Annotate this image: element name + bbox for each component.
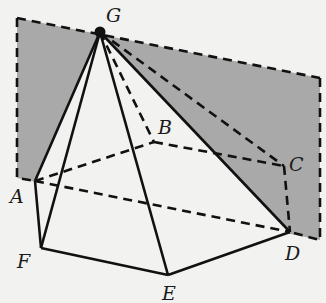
label-C: C: [289, 153, 304, 175]
label-F: F: [16, 250, 31, 272]
label-E: E: [161, 282, 176, 303]
label-A: A: [8, 185, 24, 207]
label-B: B: [157, 116, 172, 138]
apex-point-G: [95, 27, 106, 38]
diagram-canvas: G A B C D E F: [0, 0, 326, 303]
label-G: G: [106, 4, 121, 26]
pyramid-diagram: G A B C D E F: [0, 0, 326, 303]
label-D: D: [284, 242, 300, 264]
